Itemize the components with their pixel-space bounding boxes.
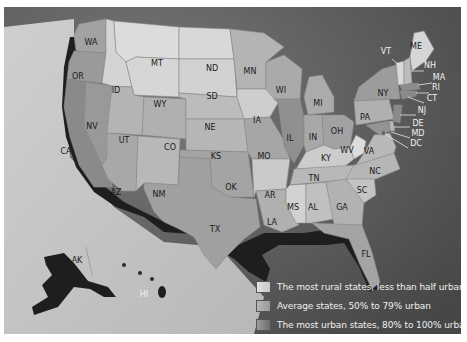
hawaii-island[interactable] — [122, 263, 126, 267]
state-mt[interactable] — [114, 21, 179, 62]
legend-swatch-rural — [256, 281, 271, 293]
label-wa: WA — [85, 38, 98, 47]
legend-swatch-urban — [256, 319, 271, 331]
hawaii-big-island[interactable] — [158, 286, 166, 298]
label-ct: CT — [427, 94, 438, 103]
label-fl: FL — [361, 250, 371, 259]
label-wy: WY — [154, 100, 167, 109]
label-az: AZ — [111, 188, 122, 197]
label-nm: NM — [153, 190, 166, 199]
map-frame: WA OR CA NV ID MT WY UT CO AZ NM ND SD N… — [4, 7, 461, 334]
hawaii-island[interactable] — [138, 271, 142, 275]
label-nd: ND — [206, 64, 218, 73]
label-nc: NC — [369, 167, 381, 176]
state-ri[interactable] — [412, 91, 417, 97]
label-ar: AR — [264, 191, 275, 200]
label-mt: MT — [151, 59, 163, 68]
label-tn: TN — [308, 174, 320, 183]
label-ks: KS — [211, 152, 221, 161]
label-ri: RI — [432, 83, 440, 92]
label-nj: NJ — [418, 106, 426, 115]
label-la: LA — [267, 218, 278, 227]
label-hi: HI — [140, 290, 148, 299]
label-md: MD — [411, 129, 424, 138]
label-ma: MA — [433, 73, 446, 82]
label-oh: OH — [331, 127, 343, 136]
label-ut: UT — [119, 136, 130, 145]
label-wi: WI — [276, 86, 286, 95]
label-ms: MS — [287, 203, 299, 212]
label-ia: IA — [253, 116, 261, 125]
label-mn: MN — [244, 67, 257, 76]
state-wa[interactable] — [74, 19, 106, 53]
label-in: IN — [309, 133, 317, 142]
state-nd[interactable] — [179, 27, 234, 59]
label-ok: OK — [225, 183, 237, 192]
legend-label-rural: The most rural states, less than half ur… — [277, 282, 461, 292]
hawaii-island[interactable] — [150, 277, 154, 281]
label-pa: PA — [360, 113, 370, 122]
label-ga: GA — [336, 203, 348, 212]
label-ak: AK — [72, 256, 83, 265]
label-sd: SD — [206, 92, 217, 101]
label-mo: MO — [257, 152, 270, 161]
legend-swatch-average — [256, 300, 271, 312]
label-me: ME — [410, 42, 422, 51]
label-or: OR — [72, 72, 84, 81]
label-va: VA — [364, 147, 375, 156]
label-co: CO — [164, 143, 176, 152]
state-ks[interactable] — [186, 119, 248, 152]
label-tx: TX — [209, 225, 221, 234]
legend-label-average: Average states, 50% to 79% urban — [277, 301, 431, 311]
label-mi: MI — [313, 99, 322, 108]
label-id: ID — [112, 86, 121, 95]
legend-item-urban: The most urban states, 80% to 100% urban — [256, 318, 461, 332]
label-al: AL — [308, 203, 318, 212]
label-sc: SC — [357, 186, 368, 195]
label-nh: NH — [424, 61, 436, 70]
label-il: IL — [287, 134, 294, 143]
label-ny: NY — [378, 89, 389, 98]
legend-item-rural: The most rural states, less than half ur… — [256, 280, 461, 294]
label-vt: VT — [381, 47, 391, 56]
legend-label-urban: The most urban states, 80% to 100% urban — [277, 320, 461, 330]
label-dc: DC — [410, 139, 422, 148]
state-dc[interactable] — [382, 131, 385, 135]
label-ky: KY — [321, 154, 331, 163]
label-de: DE — [412, 119, 423, 128]
label-nv: NV — [86, 122, 98, 131]
label-wv: WV — [340, 146, 354, 155]
legend-item-average: Average states, 50% to 79% urban — [256, 299, 431, 313]
label-ne: NE — [204, 123, 215, 132]
label-ca: CA — [60, 147, 72, 156]
